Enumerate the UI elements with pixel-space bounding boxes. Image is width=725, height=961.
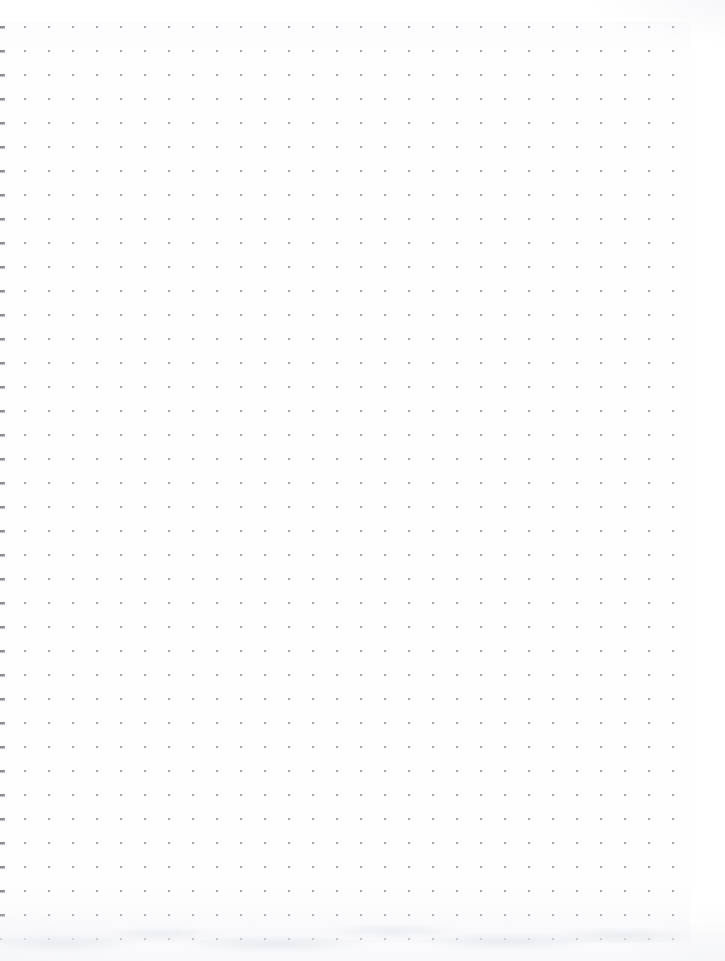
top-margin [0,0,725,22]
paper-tint [0,0,725,961]
right-margin [690,0,725,961]
dot-grid [0,0,725,961]
paper-scan-texture [0,901,725,961]
scan-vignette [0,0,725,961]
clipped-edge-dots [0,26,5,918]
dot-grid-page: Blank Dot Grid Page [0,0,725,961]
bottom-margin [0,943,725,961]
